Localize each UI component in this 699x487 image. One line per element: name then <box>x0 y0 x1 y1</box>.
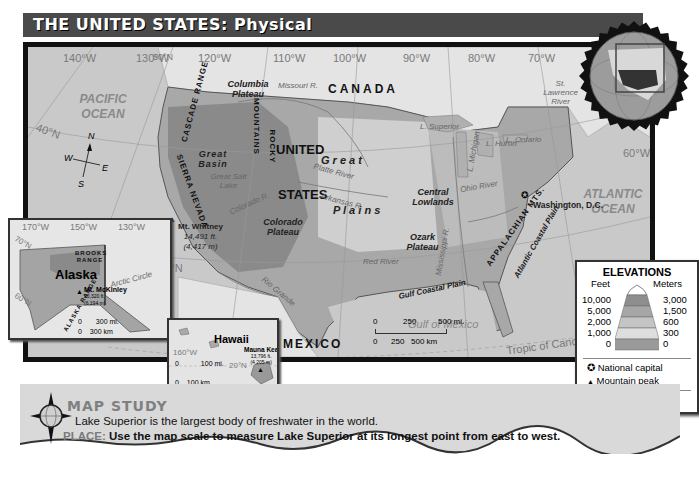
canada-label: CANADA <box>328 82 398 96</box>
legend-capital-row: ✪ National capital <box>587 361 697 374</box>
compass-e: E <box>102 163 108 173</box>
peak-elevation-m: (4,417 m) <box>173 242 228 252</box>
scale-km-0: 0 <box>373 337 377 346</box>
elevation-feet-label: 2,000 <box>587 316 611 327</box>
map-study-question: PLACE: Use the map scale to measure Lake… <box>63 430 560 442</box>
mexico-label: MEXICO <box>283 337 342 351</box>
elevation-meters-label: 600 <box>663 316 679 327</box>
hawaii-scale-mi: 0 100 mi. <box>175 360 224 367</box>
alaska-longitude: 150°W <box>70 222 97 232</box>
elevation-feet-label: 1,000 <box>587 327 611 338</box>
alaska-scale-km: 0 300 km <box>78 328 113 335</box>
elevation-meters-label: 300 <box>663 327 679 338</box>
scale-mi: 100 mi. <box>201 360 224 367</box>
peak-elevation-ft: 20,320 ft. <box>84 293 127 300</box>
elevation-meters-label: 1,500 <box>663 305 687 316</box>
elevation-band <box>624 295 650 306</box>
place-label: PLACE: <box>63 430 106 442</box>
scale-mi-250: 250 <box>403 317 416 326</box>
capital-label: National capital <box>598 362 663 373</box>
hawaii-label: Hawaii <box>214 333 249 345</box>
peak-elevation-m: (4,205 m) <box>244 359 278 365</box>
scale-mi-500: 500 mi. <box>438 317 464 326</box>
longitude-label: 110°W <box>273 52 305 64</box>
map-scale: 0 250 500 mi. 0 250 500 km <box>373 315 473 350</box>
scale-mi: 300 mi. <box>96 318 119 325</box>
elevation-band <box>618 317 656 328</box>
elevation-meters-label: 0 <box>663 338 668 349</box>
central-lowlands-label: Central Lowlands <box>408 187 458 207</box>
elevation-feet-label: 5,000 <box>587 305 611 316</box>
scale-km: 300 km <box>90 328 113 335</box>
lake-ontario-label: L. Ontario <box>506 135 541 144</box>
pacific-ocean-label: PACIFIC OCEAN <box>73 92 133 122</box>
rocky-label: ROCKY <box>268 130 277 164</box>
title-bar: THE UNITED STATES: Physical <box>23 13 643 37</box>
longitude-label: 70°W <box>528 52 555 64</box>
scale-0: 0 <box>78 328 82 335</box>
hawaii-longitude: 160°W <box>173 348 197 357</box>
hawaii-inset: Hawaii 160°W 20°N ▲ Mauna Kea 13,796 ft.… <box>167 318 279 394</box>
compass-icon <box>68 137 108 187</box>
scale-km-500: 500 km <box>411 337 437 346</box>
map-study-fact: Lake Superior is the largest body of fre… <box>75 415 378 427</box>
longitude-label: 80°W <box>468 52 495 64</box>
compass-s: S <box>78 179 84 189</box>
st-lawrence-river-label: St. Lawrence River <box>538 79 583 106</box>
peak-elevation-m: (6,194 m) <box>84 300 127 307</box>
longitude-label: 140°W <box>63 52 96 64</box>
longitude-label: 90°W <box>403 52 430 64</box>
scale-mi-0: 0 <box>373 317 377 326</box>
mauna-kea-label: Mauna Kea 13,796 ft. (4,205 m) <box>244 347 278 365</box>
map-title: THE UNITED STATES: Physical <box>33 15 312 34</box>
longitude-label: 100°W <box>333 52 366 64</box>
compass-rose: N S E W <box>68 137 108 187</box>
alaska-scale: 0 300 mi. <box>78 318 128 325</box>
us-label-line1: UNITED <box>276 142 324 157</box>
globe-icon <box>578 20 690 132</box>
peak-elevation-ft: 14,491 ft. <box>173 232 228 242</box>
peak-name: Mt. McKinley <box>84 286 127 293</box>
elevation-band <box>621 306 653 317</box>
compass-w: W <box>64 153 73 163</box>
missouri-river-label: Missouri R. <box>278 81 318 90</box>
elevation-meters-label: 3,000 <box>663 294 687 305</box>
latitude-label: 50°N <box>153 52 173 62</box>
compass-n: N <box>88 131 95 141</box>
question-text: Use the map scale to measure Lake Superi… <box>109 430 560 442</box>
national-capital-icon: ✪ <box>587 362 595 373</box>
legend-title: ELEVATIONS <box>577 266 697 278</box>
great-basin-label: Great Basin <box>193 149 233 169</box>
longitude-label: 60°W <box>623 147 650 159</box>
great-plains-label-1: G r e a t <box>321 155 362 165</box>
alaska-inset: 170°W 150°W 130°W 70°N 60°N BROOKS RANGE… <box>8 218 172 340</box>
washington-dc-label: Washington, D.C. <box>533 200 603 210</box>
mt-whitney-label: Mt. Whitney 14,491 ft. (4,417 m) <box>173 222 228 252</box>
scale-bar <box>375 329 447 334</box>
elevation-band <box>615 339 659 350</box>
map-study-heading: MAP STUDY <box>67 398 168 414</box>
mountain-peak-icon: ▲ <box>257 366 264 373</box>
elevation-feet-label: 10,000 <box>582 294 611 305</box>
red-river-label: Red River <box>363 257 399 266</box>
elevation-scale: Feet Meters 10,0003,0005,0001,5002,00060… <box>577 278 697 356</box>
frame-border-bottom <box>28 358 650 361</box>
scale-0: 0 <box>175 360 179 367</box>
brooks-range-label: BROOKS RANGE <box>75 250 105 264</box>
feet-header: Feet <box>591 278 610 289</box>
mt-mckinley-label: Mt. McKinley 20,320 ft. (6,194 m) <box>84 286 127 307</box>
peak-name: Mt. Whitney <box>173 222 228 232</box>
national-capital-icon: ✪ <box>521 190 529 200</box>
alaska-longitude: 170°W <box>22 222 49 232</box>
elevation-band <box>615 328 659 339</box>
frame-border-top <box>28 43 650 46</box>
scale-0: 0 <box>78 318 82 325</box>
mountains-label: MOUNTAINS <box>252 98 261 155</box>
great-salt-lake-label: Great Salt Lake <box>206 172 251 190</box>
elevation-mountain-icon <box>615 283 659 351</box>
alaska-longitude: 130°W <box>118 222 145 232</box>
elevation-feet-label: 0 <box>606 338 611 349</box>
mountain-peak-icon: ▲ <box>76 288 83 295</box>
colorado-plateau-label: Colorado Plateau <box>258 217 308 237</box>
columbia-plateau-label: Columbia Plateau <box>223 79 273 99</box>
